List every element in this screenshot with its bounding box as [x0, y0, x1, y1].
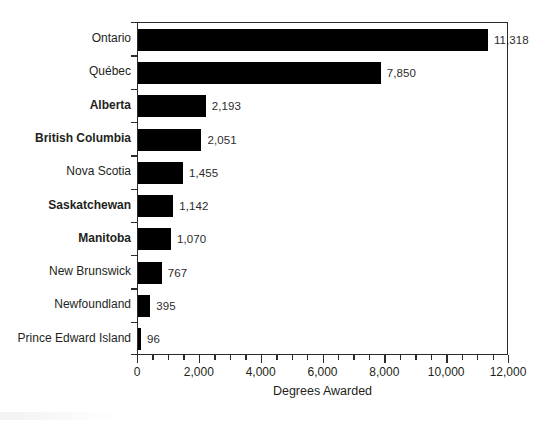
- value-tick-label: 10,000: [428, 365, 465, 379]
- bar-row: 2,193: [138, 90, 507, 123]
- value-tick-major: [137, 355, 138, 363]
- value-tick-major: [199, 355, 200, 363]
- value-tick-minor: [353, 355, 354, 360]
- value-tick-minor: [230, 355, 231, 360]
- bar: [138, 129, 201, 151]
- category-axis-labels: OntarioQuébecAlbertaBritish ColumbiaNova…: [0, 22, 131, 355]
- bar-row: 7,850: [138, 56, 507, 89]
- bar-value-label: 11,318: [494, 34, 529, 46]
- category-label-nova-scotia: Nova Scotia: [66, 155, 131, 188]
- value-tick-major: [384, 355, 385, 363]
- bar-row: 1,070: [138, 223, 507, 256]
- value-tick-minor: [400, 355, 401, 360]
- value-axis-ticks: [137, 355, 508, 364]
- value-tick-major: [323, 355, 324, 363]
- bar-row: 1,142: [138, 190, 507, 223]
- bar-value-label: 7,850: [387, 67, 416, 79]
- category-label-saskatchewan: Saskatchewan: [48, 189, 131, 222]
- bar-value-label: 96: [147, 333, 160, 345]
- bar: [138, 95, 206, 117]
- value-tick-minor: [183, 355, 184, 360]
- value-tick-minor: [307, 355, 308, 360]
- bar-value-label: 1,070: [177, 233, 206, 245]
- scan-edge-artifact: [0, 412, 120, 420]
- category-label-ontario: Ontario: [92, 22, 131, 55]
- bar: [138, 62, 381, 84]
- bar-row: 2,051: [138, 123, 507, 156]
- value-tick-minor: [292, 355, 293, 360]
- value-tick-minor: [245, 355, 246, 360]
- bar: [138, 328, 141, 350]
- value-tick-minor: [493, 355, 494, 360]
- category-label-manitoba: Manitoba: [78, 222, 131, 255]
- value-tick-label: 4,000: [246, 365, 276, 379]
- category-label-alberta: Alberta: [90, 89, 131, 122]
- value-tick-minor: [168, 355, 169, 360]
- value-axis-tick-labels: 02,0004,0006,0008,00010,00012,000: [0, 365, 546, 383]
- bar: [138, 162, 183, 184]
- bar: [138, 29, 488, 51]
- category-label-qu-bec: Québec: [89, 55, 131, 88]
- bar-row: 1,455: [138, 156, 507, 189]
- bar-row: 767: [138, 256, 507, 289]
- value-tick-minor: [152, 355, 153, 360]
- value-tick-major: [446, 355, 447, 363]
- value-tick-label: 6,000: [307, 365, 337, 379]
- value-tick-label: 0: [134, 365, 141, 379]
- value-tick-label: 2,000: [184, 365, 214, 379]
- value-tick-label: 12,000: [490, 365, 527, 379]
- bar-value-label: 1,455: [189, 167, 218, 179]
- bar: [138, 195, 173, 217]
- bar-value-label: 2,193: [212, 100, 241, 112]
- category-label-british-columbia: British Columbia: [35, 122, 131, 155]
- value-tick-minor: [415, 355, 416, 360]
- value-tick-minor: [477, 355, 478, 360]
- bar: [138, 228, 171, 250]
- bar: [138, 262, 162, 284]
- value-tick-minor: [338, 355, 339, 360]
- category-label-newfoundland: Newfoundland: [54, 288, 131, 321]
- value-tick-major: [508, 355, 509, 363]
- bar-value-label: 1,142: [179, 200, 208, 212]
- bar-row: 395: [138, 289, 507, 322]
- bar-row: 11,318: [138, 23, 507, 56]
- value-tick-minor: [431, 355, 432, 360]
- category-label-prince-edward-island: Prince Edward Island: [18, 322, 131, 355]
- value-tick-minor: [214, 355, 215, 360]
- plot-area: 11,3187,8502,1932,0511,4551,1421,0707673…: [137, 22, 508, 355]
- bar: [138, 295, 150, 317]
- bar-row: 96: [138, 323, 507, 356]
- value-tick-major: [261, 355, 262, 363]
- x-axis-title: Degrees Awarded: [137, 384, 508, 398]
- value-tick-minor: [462, 355, 463, 360]
- bar-value-label: 395: [156, 300, 176, 312]
- bar-value-label: 2,051: [207, 134, 236, 146]
- value-tick-minor: [369, 355, 370, 360]
- category-label-new-brunswick: New Brunswick: [49, 255, 131, 288]
- bar-value-label: 767: [168, 267, 188, 279]
- bar-chart-figure: OntarioQuébecAlbertaBritish ColumbiaNova…: [0, 0, 546, 425]
- value-tick-label: 8,000: [369, 365, 399, 379]
- value-tick-minor: [276, 355, 277, 360]
